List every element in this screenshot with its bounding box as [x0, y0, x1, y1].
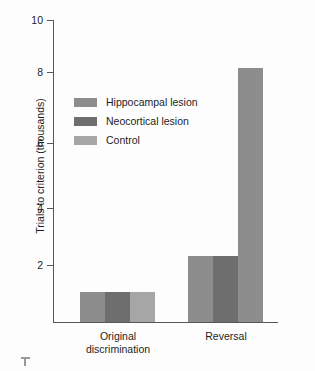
legend-label-hippocampal-lesion: Hippocampal lesion [106, 97, 198, 108]
bar-original-neocortical-lesion [105, 292, 130, 322]
plot-area [54, 20, 278, 322]
y-axis-tick-label-2: 2 [3, 260, 43, 270]
bar-group-reversal [188, 20, 263, 322]
x-axis-label-original-discrimination: Original discrimination [78, 330, 158, 355]
legend-swatch-control [74, 136, 97, 145]
legend-label-neocortical-lesion: Neocortical lesion [106, 116, 189, 127]
bar-chart-figure: 10 8 6 4 2 Trials to criterion (thousand… [0, 0, 315, 371]
y-axis-tick-2 [47, 265, 54, 266]
scan-artifact-mark-2 [24, 359, 26, 366]
x-axis-line [53, 322, 278, 323]
bar-original-control [130, 292, 155, 322]
legend-label-control: Control [106, 135, 140, 146]
y-axis-tick-4 [47, 208, 54, 209]
y-axis-tick-10 [47, 20, 54, 21]
y-axis-tick-label-10: 10 [3, 15, 43, 25]
chart-legend: Hippocampal lesion Neocortical lesion Co… [74, 94, 198, 151]
bar-original-hippocampal-lesion [80, 292, 105, 322]
legend-swatch-neocortical-lesion [74, 117, 97, 126]
legend-item-control: Control [74, 132, 198, 148]
bar-reversal-hippocampal-lesion [188, 256, 213, 322]
x-axis-label-reversal: Reversal [188, 330, 264, 343]
y-axis-tick-8 [47, 72, 54, 73]
y-axis-tick-6 [47, 143, 54, 144]
legend-item-neocortical-lesion: Neocortical lesion [74, 113, 198, 129]
bar-reversal-control [238, 68, 263, 322]
bar-reversal-neocortical-lesion [213, 256, 238, 322]
legend-swatch-hippocampal-lesion [74, 98, 97, 107]
bar-group-original-discrimination [80, 20, 155, 322]
legend-item-hippocampal-lesion: Hippocampal lesion [74, 94, 198, 110]
y-axis-title: Trials to criterion (thousands) [34, 71, 46, 261]
